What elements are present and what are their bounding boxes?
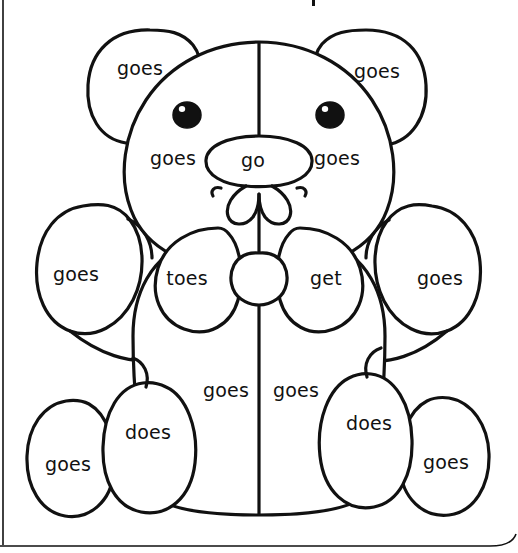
right-eye — [316, 102, 344, 128]
word-label-ear-right[interactable]: goes — [354, 60, 400, 82]
coloring-page: .ln { fill:#ffffff; stroke:#111111; stro… — [0, 0, 518, 553]
word-label-foot-right[interactable]: goes — [423, 451, 469, 473]
word-label-belly-left[interactable]: goes — [203, 379, 249, 401]
word-label-muzzle[interactable]: go — [241, 149, 265, 171]
word-label-belly-right[interactable]: goes — [273, 379, 319, 401]
word-label-foot-left[interactable]: goes — [45, 453, 91, 475]
word-label-leg-right[interactable]: does — [346, 412, 392, 434]
bow-knot — [231, 253, 287, 305]
word-label-bow-left[interactable]: toes — [166, 267, 207, 289]
word-label-leg-left[interactable]: does — [125, 421, 171, 443]
word-label-bow-right[interactable]: get — [310, 267, 342, 289]
word-label-cheek-right[interactable]: goes — [314, 147, 360, 169]
top-partial-mark — [312, 0, 315, 6]
bottom-rule — [0, 534, 516, 546]
left-leg-shape — [103, 383, 196, 513]
word-label-arm-right[interactable]: goes — [417, 267, 463, 289]
left-eye-glint — [179, 106, 185, 112]
word-label-ear-left[interactable]: goes — [117, 57, 163, 79]
word-label-arm-left[interactable]: goes — [53, 263, 99, 285]
right-eye-glint — [322, 106, 328, 112]
left-eye — [173, 102, 201, 128]
word-label-cheek-left[interactable]: goes — [150, 147, 196, 169]
right-leg-shape — [319, 374, 412, 508]
